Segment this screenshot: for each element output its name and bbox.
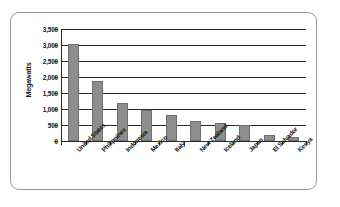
y-axis-tick-mark — [54, 93, 58, 94]
gridline — [61, 29, 306, 30]
y-axis-tick-label: 2,500 — [20, 58, 58, 65]
y-axis-tick-mark — [54, 29, 58, 30]
bar — [264, 135, 275, 141]
y-axis-tick-labels: 05001,0001,5002,0002,5003,0003,500 — [16, 29, 58, 141]
y-axis-tick-label: 3,500 — [20, 26, 58, 33]
bar — [190, 121, 201, 141]
gridline — [61, 45, 306, 46]
y-axis-tick-mark — [54, 61, 58, 62]
y-axis-tick-mark — [54, 77, 58, 78]
y-axis-tick-mark — [54, 125, 58, 126]
y-axis-tick-label: 500 — [20, 122, 58, 129]
gridline — [61, 61, 306, 62]
y-axis-tick-label: 2,000 — [20, 74, 58, 81]
y-axis-tick-mark — [54, 45, 58, 46]
y-axis-tick-label: 0 — [20, 138, 58, 145]
y-axis-tick-label: 3,000 — [20, 42, 58, 49]
bar — [68, 44, 79, 141]
y-axis-tick-mark — [54, 141, 58, 142]
y-axis-tick-label: 1,500 — [20, 90, 58, 97]
x-axis-tick-mark — [61, 141, 62, 145]
gridline — [61, 77, 306, 78]
y-axis-tick-mark — [54, 109, 58, 110]
y-axis-tick-label: 1,000 — [20, 106, 58, 113]
chart-figure: Megawatts 05001,0001,5002,0002,5003,0003… — [0, 0, 340, 207]
